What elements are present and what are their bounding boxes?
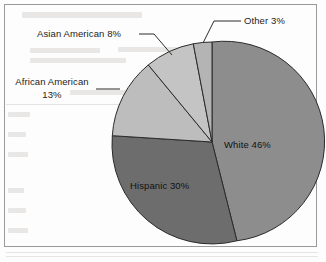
- pie-label-other: Other 3%: [244, 15, 285, 27]
- pie-label-hispanic: Hispanic 30%: [130, 180, 189, 191]
- pie-label-african-american-value: 13%: [10, 89, 94, 102]
- pie-label-african-american-name: African American: [10, 76, 94, 89]
- pie-label-african-american: African American 13%: [10, 76, 94, 101]
- pie-label-asian-american: Asian American 8%: [37, 28, 121, 40]
- pie-label-white: White 46%: [224, 139, 271, 150]
- leader-line-asian-american: [139, 34, 172, 55]
- figure-screenshot: Other 3% Asian American 8% African Ameri…: [0, 0, 326, 262]
- leader-line-other: [203, 21, 241, 43]
